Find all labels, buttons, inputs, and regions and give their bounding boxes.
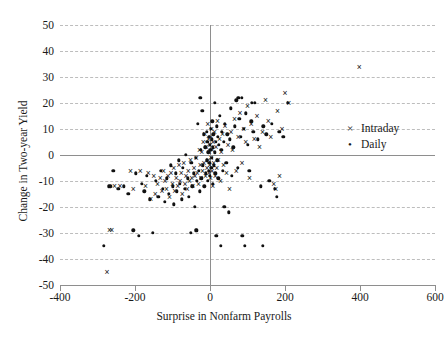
x-tick-label: 400 — [351, 291, 368, 303]
data-point-daily — [259, 184, 262, 187]
x-tick-label: 600 — [426, 291, 443, 303]
data-point-daily — [253, 101, 256, 104]
gridline-y — [60, 51, 435, 52]
data-point-daily — [228, 138, 231, 141]
y-tick-label: 10 — [43, 123, 55, 135]
data-point-intraday: × — [131, 185, 136, 194]
data-point-daily — [211, 119, 214, 122]
data-point-daily — [187, 195, 190, 198]
data-point-daily — [256, 138, 259, 141]
data-point-daily — [200, 109, 203, 112]
data-point-intraday: × — [257, 143, 262, 152]
data-point-intraday: × — [239, 159, 244, 168]
data-point-daily — [102, 244, 105, 247]
y-tick-label: -40 — [39, 253, 54, 265]
data-point-daily — [193, 205, 196, 208]
data-point-intraday: × — [268, 133, 273, 142]
gridline-y — [60, 259, 435, 260]
data-point-daily — [143, 190, 146, 193]
legend-label-daily: Daily — [361, 136, 387, 152]
y-axis-title: Change in Two-year Yield — [17, 46, 29, 276]
data-point-intraday: × — [128, 166, 133, 175]
data-point-daily — [230, 174, 233, 177]
data-point-daily — [172, 203, 175, 206]
intraday-marker-icon: × — [345, 123, 355, 134]
y-tick-label: 20 — [43, 97, 55, 109]
y-tick-label: -50 — [39, 279, 54, 291]
data-point-daily — [180, 197, 183, 200]
data-point-intraday: × — [357, 62, 362, 71]
data-point-intraday: × — [277, 172, 282, 181]
data-point-daily — [175, 190, 178, 193]
data-point-daily — [112, 169, 115, 172]
data-point-daily — [224, 161, 227, 164]
y-tick-label: 0 — [48, 149, 54, 161]
data-point-intraday: × — [263, 96, 268, 105]
data-point-daily — [236, 166, 239, 169]
data-point-daily — [213, 101, 216, 104]
data-point-daily — [218, 114, 221, 117]
y-tick-label: -30 — [39, 227, 54, 239]
x-tick-label: 200 — [276, 291, 293, 303]
data-point-intraday: × — [227, 185, 232, 194]
data-point-daily — [239, 135, 242, 138]
data-point-daily — [215, 125, 218, 128]
y-tick-label: -10 — [39, 175, 54, 187]
data-point-daily — [248, 169, 251, 172]
data-point-daily — [275, 195, 278, 198]
data-point-daily — [281, 135, 284, 138]
x-tick-label: -400 — [49, 291, 70, 303]
y-tick-label: 40 — [43, 45, 55, 57]
data-point-intraday: × — [247, 174, 252, 183]
data-point-daily — [240, 96, 243, 99]
data-point-intraday: × — [275, 107, 280, 116]
data-point-daily — [244, 112, 247, 115]
data-point-daily — [217, 143, 220, 146]
gridline-y — [60, 233, 435, 234]
gridline-y — [60, 207, 435, 208]
data-point-daily — [270, 122, 273, 125]
data-point-intraday: × — [229, 127, 234, 136]
data-point-intraday: × — [138, 166, 143, 175]
x-axis-line — [60, 285, 435, 286]
plot-area: ××××××××××××××××××××××××××××××××××××××××… — [60, 25, 435, 285]
scatter-chart: ××××××××××××××××××××××××××××××××××××××××… — [0, 0, 448, 339]
data-point-daily — [151, 231, 154, 234]
data-point-daily — [137, 234, 140, 237]
x-axis-title: Surprise in Nonfarm Payrolls — [0, 310, 448, 322]
zero-line-horizontal — [60, 155, 435, 156]
data-point-intraday: × — [232, 114, 237, 123]
data-point-daily — [213, 151, 216, 154]
data-point-daily — [163, 200, 166, 203]
chart-legend: × Intraday • Daily — [345, 120, 399, 152]
legend-label-intraday: Intraday — [361, 120, 399, 136]
data-point-daily — [219, 244, 222, 247]
gridline-y — [60, 25, 435, 26]
legend-item-intraday: × Intraday — [345, 120, 399, 136]
y-tick-label: -20 — [39, 201, 54, 213]
data-point-intraday: × — [283, 88, 288, 97]
y-tick-label: 50 — [43, 19, 55, 31]
data-point-daily — [157, 195, 160, 198]
y-tick-label: 30 — [43, 71, 55, 83]
legend-item-daily: • Daily — [345, 136, 399, 152]
data-point-daily — [203, 184, 206, 187]
data-point-daily — [238, 117, 241, 120]
data-point-daily — [229, 106, 232, 109]
data-point-daily — [227, 210, 230, 213]
data-point-intraday: × — [109, 226, 114, 235]
data-point-daily — [233, 125, 236, 128]
data-point-daily — [215, 234, 218, 237]
data-point-daily — [241, 234, 244, 237]
data-point-daily — [196, 122, 199, 125]
x-tick-label: -200 — [124, 291, 145, 303]
data-point-daily — [131, 229, 134, 232]
x-tick-label: 0 — [207, 291, 213, 303]
daily-marker-icon: • — [345, 139, 355, 150]
data-point-daily — [235, 99, 238, 102]
data-point-daily — [181, 166, 184, 169]
gridline-y — [60, 77, 435, 78]
data-point-daily — [199, 96, 202, 99]
data-point-intraday: × — [224, 169, 229, 178]
data-point-daily — [246, 143, 249, 146]
